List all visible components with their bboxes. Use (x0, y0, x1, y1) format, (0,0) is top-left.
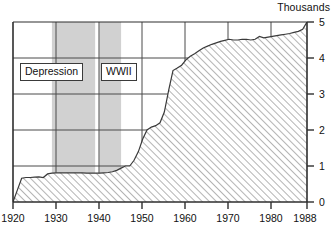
x-tick-label-1930: 1930 (44, 212, 68, 224)
x-tick-label-1950: 1950 (130, 212, 154, 224)
x-tick-label-1940: 1940 (87, 212, 111, 224)
caption-strip (4, 230, 214, 239)
y-tick-label-2: 2 (319, 124, 325, 136)
x-tick-label-1970: 1970 (216, 212, 240, 224)
chart-plot-svg: 5 4 3 2 1 0 1920 1930 1940 1950 1960 197… (0, 0, 333, 239)
y-tick-label-3: 3 (319, 88, 325, 100)
y-tick-label-5: 5 (319, 16, 325, 28)
annotation-depression: Depression (20, 63, 83, 81)
x-tick-label-1920: 1920 (1, 212, 25, 224)
annotation-wwii: WWII (101, 63, 137, 81)
y-tick-marks-group (307, 22, 314, 202)
x-tick-labels-group: 1920 1930 1940 1950 1960 1970 1980 1988 (1, 212, 317, 224)
x-tick-label-1960: 1960 (173, 212, 197, 224)
x-tick-label-1980: 1980 (259, 212, 283, 224)
chart-container: Thousands (0, 0, 333, 239)
x-tick-label-1988: 1988 (293, 212, 317, 224)
x-tick-marks-group (13, 202, 307, 209)
y-tick-label-0: 0 (319, 196, 325, 208)
y-tick-label-4: 4 (319, 52, 325, 64)
y-tick-labels-group: 5 4 3 2 1 0 (319, 16, 325, 208)
y-tick-label-1: 1 (319, 160, 325, 172)
